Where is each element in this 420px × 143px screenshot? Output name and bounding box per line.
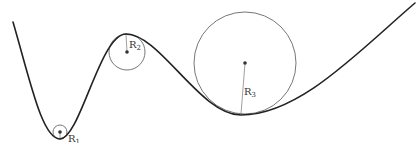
radius-label-subscript: 1 <box>76 138 80 143</box>
curve <box>13 3 415 139</box>
center-point-r2 <box>125 50 129 54</box>
radius-label-subscript: 2 <box>137 44 141 52</box>
radius-label-subscript: 3 <box>252 91 256 99</box>
radius-label-r3: R3 <box>244 86 256 99</box>
radius-line-r2 <box>126 34 127 52</box>
radius-label-r2: R2 <box>129 39 141 52</box>
center-point-r3 <box>243 61 247 65</box>
curvature-diagram: R1R2R3 <box>0 0 420 143</box>
osculating-circles <box>53 12 296 139</box>
center-point-r1 <box>58 130 62 134</box>
radius-label-r1: R1 <box>68 133 80 143</box>
